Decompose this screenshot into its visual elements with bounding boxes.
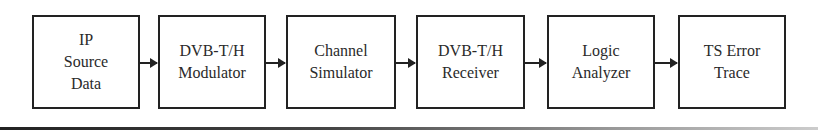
arrow-icon — [266, 62, 285, 64]
block-label: TS Error Trace — [704, 40, 760, 84]
block-ts-error-trace: TS Error Trace — [678, 15, 786, 109]
arrow-icon — [140, 62, 157, 64]
arrow-icon — [655, 62, 677, 64]
block-ip-source-data: IP Source Data — [32, 15, 140, 109]
block-label: Channel Simulator — [309, 40, 372, 84]
bottom-rule — [0, 127, 818, 130]
block-channel-simulator: Channel Simulator — [286, 15, 396, 109]
arrow-icon — [396, 62, 415, 64]
block-label: IP Source Data — [64, 29, 108, 95]
block-label: DVB-T/H Modulator — [178, 40, 246, 84]
block-label: Logic Analyzer — [572, 40, 631, 84]
block-dvb-receiver: DVB-T/H Receiver — [416, 15, 525, 109]
block-label: DVB-T/H Receiver — [438, 40, 503, 84]
block-dvb-modulator: DVB-T/H Modulator — [158, 15, 266, 109]
arrow-icon — [525, 62, 546, 64]
block-logic-analyzer: Logic Analyzer — [547, 15, 655, 109]
